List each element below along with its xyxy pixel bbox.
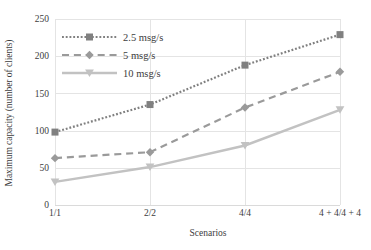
x-tick-label: 1/1: [49, 208, 61, 218]
legend-label: 5 msg/s: [123, 50, 155, 61]
y-tick-label: 0: [9, 200, 49, 210]
x-tick-label: 2/2: [144, 208, 156, 218]
y-tick-label: 200: [9, 51, 49, 61]
capacity-line-chart: Maximum capacity (number of clients) 0 5…: [0, 0, 371, 250]
legend: 2.5 msg/s 5 msg/s 10 msg/s: [62, 28, 163, 82]
x-tick-label: 4 + 4/4 + 4: [319, 208, 361, 218]
legend-label: 10 msg/s: [123, 68, 161, 79]
legend-item-0: 2.5 msg/s: [62, 28, 163, 46]
legend-swatch-icon: [62, 48, 117, 62]
legend-label: 2.5 msg/s: [123, 32, 163, 43]
legend-swatch-icon: [62, 66, 117, 80]
y-tick-label: 250: [9, 14, 49, 24]
x-axis-title: Scenarios: [48, 228, 368, 238]
y-axis-title: Maximum capacity (number of clients): [2, 8, 16, 218]
y-tick-label: 50: [9, 163, 49, 173]
legend-item-1: 5 msg/s: [62, 46, 163, 64]
legend-item-2: 10 msg/s: [62, 64, 163, 82]
legend-swatch-icon: [62, 30, 117, 44]
y-tick-label: 150: [9, 89, 49, 99]
y-tick-label: 100: [9, 126, 49, 136]
x-tick-label: 4/4: [239, 208, 251, 218]
x-axis-line: [55, 205, 340, 206]
